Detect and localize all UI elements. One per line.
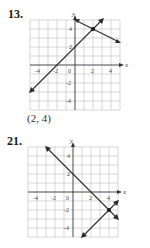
x-axis-label: x: [122, 188, 127, 196]
x-tick: 0: [66, 195, 69, 201]
y-tick: 2: [69, 44, 72, 50]
x-tick: 2: [91, 68, 94, 74]
x-tick: 0: [68, 68, 71, 74]
answer-13: (2, 4): [27, 112, 51, 124]
y-tick: -4: [64, 225, 69, 231]
x-tick: -4: [35, 68, 40, 74]
y-tick: -2: [64, 207, 69, 213]
y-tick: 2: [67, 171, 70, 177]
y-tick: 4: [69, 26, 72, 32]
x-axis-arrow-icon: [117, 190, 122, 194]
x-tick: 2: [89, 195, 92, 201]
y-tick: 4: [67, 153, 70, 159]
graph-13: x y -4 -2 0 2 4 4 2 -2 -4: [0, 8, 150, 123]
intersection-point: [91, 27, 95, 31]
graph-21: x y -4 -2 0 2 4 4 2 -2 -4: [0, 135, 150, 245]
x-axis-label: x: [124, 61, 129, 69]
y-tick: -2: [66, 80, 71, 86]
x-axis-arrow-icon: [119, 63, 124, 67]
x-tick: -4: [33, 195, 38, 201]
y-tick: -4: [66, 98, 71, 104]
intersection-point: [107, 208, 111, 212]
x-tick: 4: [107, 195, 110, 201]
x-tick: 4: [109, 68, 112, 74]
x-tick: -2: [51, 195, 56, 201]
